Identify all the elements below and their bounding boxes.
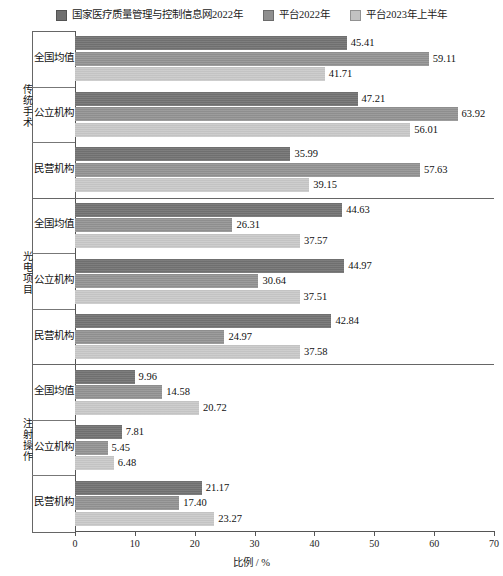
- bar: [75, 218, 232, 232]
- bar: [75, 481, 202, 495]
- bar: [75, 401, 199, 415]
- bar: [75, 259, 344, 273]
- bar-value-label: 59.11: [433, 52, 456, 66]
- x-tick-mark: [374, 531, 375, 536]
- bar-value-label: 30.64: [262, 274, 286, 288]
- legend-label: 平台2022年: [279, 10, 330, 21]
- bar: [75, 52, 429, 66]
- section-separator: [32, 364, 494, 365]
- bar-value-label: 24.97: [228, 330, 252, 344]
- bar: [75, 234, 300, 248]
- bar: [75, 496, 179, 510]
- bar-chart: 国家医疗质量管理与控制信息网2022年平台2022年平台2023年上半年 010…: [0, 0, 503, 576]
- category-separator: [32, 309, 75, 310]
- legend-label: 国家医疗质量管理与控制信息网2022年: [72, 10, 243, 21]
- legend-item: 平台2022年: [263, 10, 330, 21]
- x-tick-mark: [255, 531, 256, 536]
- bar: [75, 163, 420, 177]
- category-label: 公立机构: [32, 107, 75, 119]
- legend-label: 平台2023年上半年: [366, 10, 447, 21]
- bar-value-label: 41.71: [329, 67, 353, 81]
- section-label: 传统手术: [14, 84, 34, 128]
- legend-item: 国家医疗质量管理与控制信息网2022年: [56, 10, 243, 21]
- bar-value-label: 37.58: [304, 345, 328, 359]
- category-separator: [32, 87, 75, 88]
- chart-legend: 国家医疗质量管理与控制信息网2022年平台2022年平台2023年上半年: [0, 10, 503, 21]
- legend-swatch-icon: [350, 10, 361, 21]
- category-label: 全国均值: [32, 52, 75, 64]
- legend-swatch-icon: [56, 10, 67, 21]
- bar: [75, 370, 135, 384]
- bar: [75, 314, 331, 328]
- bar: [75, 512, 214, 526]
- section-separator: [32, 198, 494, 199]
- section-label: 光电项目: [14, 251, 34, 295]
- bar: [75, 36, 347, 50]
- bar-value-label: 39.15: [313, 178, 337, 192]
- bar: [75, 274, 258, 288]
- x-tick-mark: [195, 531, 196, 536]
- bar-value-label: 47.21: [362, 92, 386, 106]
- bar: [75, 441, 108, 455]
- bar-value-label: 26.31: [236, 218, 260, 232]
- bar: [75, 345, 300, 359]
- bar-value-label: 35.99: [294, 147, 318, 161]
- bar-value-label: 23.27: [218, 512, 242, 526]
- bar-value-label: 17.40: [183, 496, 207, 510]
- category-label: 公立机构: [32, 274, 75, 286]
- bar: [75, 67, 325, 81]
- category-label: 全国均值: [32, 385, 75, 397]
- legend-swatch-icon: [263, 10, 274, 21]
- bar: [75, 178, 309, 192]
- section-label: 注射操作: [14, 418, 34, 462]
- bar-value-label: 37.51: [304, 290, 328, 304]
- bar-value-label: 7.81: [126, 425, 144, 439]
- bar-value-label: 57.63: [424, 163, 448, 177]
- bar: [75, 123, 410, 137]
- bar: [75, 456, 114, 470]
- bar-value-label: 44.97: [348, 259, 372, 273]
- x-tick-label: 40: [309, 538, 319, 549]
- category-label: 公立机构: [32, 441, 75, 453]
- bar-value-label: 14.58: [166, 385, 190, 399]
- bar: [75, 147, 290, 161]
- category-label: 民营机构: [32, 330, 75, 342]
- x-tick-label: 0: [73, 538, 78, 549]
- x-tick-mark: [434, 531, 435, 536]
- bar: [75, 330, 224, 344]
- x-tick-label: 10: [130, 538, 140, 549]
- bar: [75, 203, 342, 217]
- category-separator: [32, 475, 75, 476]
- x-axis-line: [75, 531, 494, 532]
- bar-value-label: 21.17: [206, 481, 230, 495]
- bar-value-label: 56.01: [414, 123, 438, 137]
- bar-value-label: 63.92: [462, 107, 486, 121]
- category-label: 民营机构: [32, 163, 75, 175]
- x-tick-label: 30: [250, 538, 260, 549]
- bar-value-label: 42.84: [335, 314, 359, 328]
- x-tick-label: 70: [489, 538, 499, 549]
- category-separator: [32, 142, 75, 143]
- x-tick-mark: [135, 531, 136, 536]
- x-tick-label: 50: [369, 538, 379, 549]
- bar: [75, 290, 300, 304]
- bar-value-label: 37.57: [304, 234, 328, 248]
- bar-value-label: 45.41: [351, 36, 375, 50]
- bar: [75, 385, 162, 399]
- bar-value-label: 9.96: [139, 370, 157, 384]
- bar-value-label: 44.63: [346, 203, 370, 217]
- bar-value-label: 6.48: [118, 456, 136, 470]
- x-tick-label: 60: [429, 538, 439, 549]
- bar: [75, 107, 458, 121]
- category-label: 全国均值: [32, 218, 75, 230]
- category-separator: [32, 420, 75, 421]
- x-axis-label: 比例 / %: [0, 554, 503, 569]
- bar-value-label: 20.72: [203, 401, 227, 415]
- category-label: 民营机构: [32, 496, 75, 508]
- legend-item: 平台2023年上半年: [350, 10, 447, 21]
- x-tick-mark: [314, 531, 315, 536]
- x-tick-mark: [75, 531, 76, 536]
- bar: [75, 92, 358, 106]
- bar: [75, 425, 122, 439]
- category-separator: [32, 253, 75, 254]
